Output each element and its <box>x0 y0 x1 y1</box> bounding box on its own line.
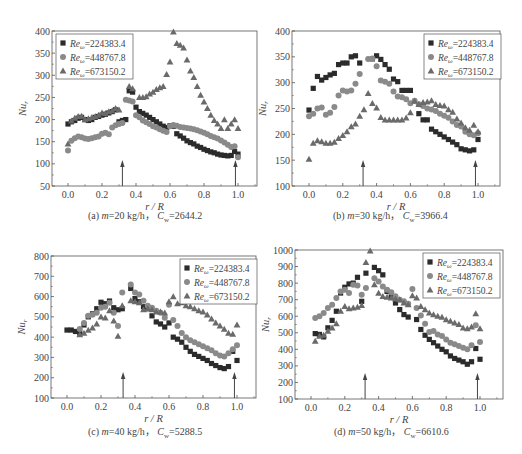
legend-item: Reω=448767.8 <box>428 53 494 64</box>
data-point <box>332 71 337 76</box>
legend-label: Reω=448767.8 <box>193 278 250 289</box>
legend-item: Reω=224383.4 <box>428 39 493 50</box>
data-point <box>352 81 358 87</box>
legend-label: Reω=224383.4 <box>436 258 493 269</box>
legend-label: Reω=673150.2 <box>193 292 250 303</box>
data-point <box>395 79 400 84</box>
data-point <box>65 148 71 154</box>
y-axis-label: Nur <box>257 101 270 117</box>
data-point <box>352 121 359 127</box>
x-tick-label: 1.0 <box>472 189 485 200</box>
data-point <box>226 364 231 369</box>
caption-separator: ， <box>391 426 401 437</box>
data-point <box>133 105 138 110</box>
caption-mass-value: =20 kg/h <box>109 210 145 221</box>
x-tick-label: 0.6 <box>406 402 419 413</box>
legend-marker-square-icon <box>184 265 189 270</box>
data-point <box>418 312 424 318</box>
y-tick-label: 600 <box>34 291 49 302</box>
data-point <box>377 114 384 120</box>
y-tick-label: 200 <box>275 129 290 140</box>
legend-label: Reω=448767.8 <box>69 53 126 64</box>
y-tick-label: 100 <box>275 181 290 192</box>
data-point <box>469 359 474 364</box>
legend-label: Reω=673150.2 <box>69 67 126 78</box>
data-point <box>231 116 238 122</box>
data-point <box>418 327 423 332</box>
caption-cw-symbol: C <box>157 210 164 221</box>
arrow-up-icon <box>361 160 365 186</box>
data-point <box>331 104 337 110</box>
data-point <box>369 55 375 61</box>
y-tick-label: 250 <box>35 92 50 103</box>
y-tick-label: 700 <box>34 271 49 282</box>
data-point <box>407 109 414 115</box>
y-tick-label: 150 <box>35 136 50 147</box>
legend-marker-square-icon <box>60 40 65 45</box>
data-point <box>141 298 147 304</box>
data-point <box>194 83 201 89</box>
x-tick-label: 0.6 <box>163 401 176 412</box>
data-point <box>359 292 365 298</box>
data-point <box>369 100 376 106</box>
data-point <box>363 285 369 291</box>
arrow-up-icon <box>233 160 237 186</box>
caption-cw-symbol: C <box>157 426 164 437</box>
x-tick-label: 0.4 <box>129 401 142 412</box>
caption-separator: ， <box>390 210 400 221</box>
caption-label: (a) <box>88 210 102 221</box>
legend-marker-square-icon <box>427 259 432 264</box>
data-point <box>475 137 480 142</box>
caption-panel-a: (a) m=20 kg/h， Cw=2644.2 <box>88 207 202 224</box>
legend-item: Reω=673150.2 <box>60 67 126 78</box>
data-point <box>167 59 174 65</box>
y-tick-label: 1000 <box>273 245 293 256</box>
caption-label: (c) <box>88 426 102 437</box>
arrow-up-icon <box>120 160 124 186</box>
caption-label: (d) <box>334 426 348 437</box>
y-axis-label: Nur <box>17 101 30 117</box>
data-point <box>234 342 240 348</box>
data-point <box>128 281 134 287</box>
data-point <box>119 120 125 126</box>
data-point <box>356 113 363 119</box>
data-point <box>235 154 241 160</box>
data-point <box>477 357 482 362</box>
figure: 501001502002503003504000.00.20.40.60.81.… <box>0 0 522 454</box>
legend: Reω=224383.4Reω=448767.8Reω=673150.2 <box>423 253 500 298</box>
data-point <box>235 125 242 131</box>
plot-panel-d: 10020030040050060070080090010000.00.20.4… <box>260 245 503 426</box>
data-point <box>170 28 177 34</box>
caption-separator: ， <box>145 210 155 221</box>
caption-mass-symbol: m <box>102 210 109 221</box>
legend-label: Reω=448767.8 <box>437 53 494 64</box>
legend-item: Reω=224383.4 <box>427 258 492 269</box>
caption-mass-symbol: m <box>102 426 109 437</box>
x-tick-label: 0.6 <box>164 189 177 200</box>
arrow-up-icon <box>232 372 236 398</box>
data-point <box>93 321 100 327</box>
data-point <box>353 53 358 58</box>
data-point <box>414 317 419 322</box>
data-point <box>77 326 83 332</box>
y-tick-label: 400 <box>34 332 49 343</box>
data-point <box>453 115 460 121</box>
caption-panel-b: (b) m=30 kg/h， Cw=3966.4 <box>333 207 448 224</box>
legend-item: Reω=673150.2 <box>428 67 494 78</box>
data-point <box>310 111 316 117</box>
data-point <box>409 292 416 298</box>
y-tick-label: 400 <box>35 26 50 37</box>
x-tick-label: 0.6 <box>404 189 417 200</box>
legend-item: Reω=673150.2 <box>427 286 493 297</box>
y-tick-label: 600 <box>278 311 293 322</box>
legend-label: Reω=673150.2 <box>437 67 494 78</box>
data-point <box>376 278 382 284</box>
data-point <box>428 97 435 103</box>
data-point <box>190 74 197 80</box>
data-point <box>380 272 385 277</box>
caption-separator: ， <box>145 426 155 437</box>
data-point <box>409 286 415 292</box>
legend: Reω=224383.4Reω=448767.8Reω=673150.2 <box>180 259 257 304</box>
plot-panel-c: 1002003004005006007008000.00.20.40.60.81… <box>16 251 257 425</box>
data-point <box>470 122 477 128</box>
